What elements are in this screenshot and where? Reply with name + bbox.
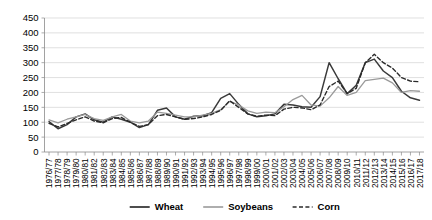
legend-label-soybeans: Soybeans xyxy=(228,201,273,212)
x-axis-tick-label: 2000/01 xyxy=(262,158,271,188)
x-axis-tick-label: 2001/02 xyxy=(271,158,280,188)
data-series xyxy=(49,54,419,128)
chart-legend: WheatSoybeansCorn xyxy=(130,201,340,212)
gridlines xyxy=(45,18,425,137)
x-axis-tick-label: 1999/00 xyxy=(253,158,262,188)
x-axis-tick-label: 1983/84 xyxy=(109,158,118,188)
x-axis-tick-label: 2012/13 xyxy=(371,158,380,188)
x-axis-tick-label: 1987/88 xyxy=(145,158,154,188)
x-axis-tick-labels: 1976/771977/781978/791979/801980/811981/… xyxy=(45,158,424,188)
chart-canvas: 050100150200250300350400450 1976/771977/… xyxy=(0,0,432,220)
x-axis-tick-label: 1990/91 xyxy=(172,158,181,188)
legend-label-wheat: Wheat xyxy=(155,201,184,212)
x-axis-tick-label: 2009/10 xyxy=(343,158,352,188)
x-axis-tick-label: 2004/05 xyxy=(298,158,307,188)
x-axis-tick-marks xyxy=(49,152,419,156)
x-axis-tick-label: 2008/09 xyxy=(334,158,343,188)
x-axis-tick-label: 1984/85 xyxy=(118,158,127,188)
series-line-soybeans xyxy=(49,78,419,123)
x-axis-tick-label: 1986/87 xyxy=(136,158,145,188)
legend-label-corn: Corn xyxy=(318,201,340,212)
y-axis-tick-label: 350 xyxy=(23,42,39,53)
line-chart: 050100150200250300350400450 1976/771977/… xyxy=(0,0,432,220)
x-axis-tick-label: 2002/03 xyxy=(280,158,289,188)
x-axis-tick-label: 1993/94 xyxy=(199,158,208,188)
y-axis-tick-label: 100 xyxy=(23,117,39,128)
x-axis-tick-label: 1982/83 xyxy=(100,158,109,188)
y-axis-tick-label: 450 xyxy=(23,12,39,23)
y-axis-tick-label: 250 xyxy=(23,72,39,83)
series-line-corn xyxy=(49,54,419,127)
x-axis-tick-label: 1998/99 xyxy=(244,158,253,188)
x-axis-tick-label: 2017/18 xyxy=(416,158,425,188)
axes xyxy=(45,18,425,152)
y-axis-tick-label: 150 xyxy=(23,102,39,113)
x-axis-tick-label: 1996/97 xyxy=(226,158,235,188)
x-axis-tick-label: 1979/80 xyxy=(72,158,81,188)
x-axis-tick-label: 2013/14 xyxy=(380,158,389,188)
x-axis-tick-label: 1994/95 xyxy=(208,158,217,188)
y-axis-tick-label: 200 xyxy=(23,87,39,98)
x-axis-tick-label: 2003/04 xyxy=(289,158,298,188)
x-axis-tick-label: 1978/79 xyxy=(63,158,72,188)
x-axis-tick-label: 1992/93 xyxy=(190,158,199,188)
x-axis-tick-label: 1991/92 xyxy=(181,158,190,188)
x-axis-tick-label: 2005/06 xyxy=(307,158,316,188)
x-axis-tick-label: 1981/82 xyxy=(90,158,99,188)
y-axis-tick-labels: 050100150200250300350400450 xyxy=(23,12,45,157)
x-axis-tick-label: 2016/17 xyxy=(407,158,416,188)
y-axis-tick-label: 50 xyxy=(28,132,39,143)
x-axis-tick-label: 1989/90 xyxy=(163,158,172,188)
series-line-wheat xyxy=(49,59,419,129)
x-axis-tick-label: 1976/77 xyxy=(45,158,54,188)
x-axis-tick-label: 2014/15 xyxy=(389,158,398,188)
y-axis-tick-label: 400 xyxy=(23,27,39,38)
x-axis-tick-label: 2015/16 xyxy=(398,158,407,188)
x-axis-tick-label: 1995/96 xyxy=(217,158,226,188)
x-axis-tick-label: 2010/11 xyxy=(353,158,362,187)
x-axis-tick-label: 2007/08 xyxy=(325,158,334,188)
x-axis-tick-label: 2011/12 xyxy=(362,158,371,187)
x-axis-tick-label: 1985/86 xyxy=(127,158,136,188)
x-axis-tick-label: 1977/78 xyxy=(54,158,63,188)
x-axis-tick-label: 1997/98 xyxy=(235,158,244,188)
x-axis-tick-label: 1988/89 xyxy=(154,158,163,188)
y-axis-tick-label: 300 xyxy=(23,57,39,68)
x-axis-tick-label: 2006/07 xyxy=(316,158,325,188)
y-axis-tick-label: 0 xyxy=(33,146,38,157)
x-axis-tick-label: 1980/81 xyxy=(81,158,90,188)
